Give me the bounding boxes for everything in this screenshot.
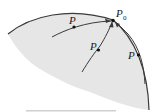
label-p0: P bbox=[115, 7, 123, 19]
limit-diagram: P 0 P P P bbox=[0, 0, 156, 112]
shaded-region bbox=[8, 13, 149, 110]
label-p-path-3: P bbox=[127, 49, 135, 61]
point-p-path-3 bbox=[137, 53, 140, 56]
footer-divider bbox=[26, 110, 116, 112]
point-p-path-2 bbox=[97, 48, 100, 51]
point-p0 bbox=[111, 19, 115, 23]
label-p0-subscript: 0 bbox=[123, 14, 127, 22]
label-p-path-2: P bbox=[89, 40, 97, 52]
label-p-path-1: P bbox=[68, 14, 76, 26]
